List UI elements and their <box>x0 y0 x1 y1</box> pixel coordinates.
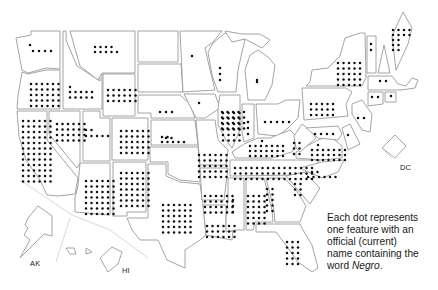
dot-tn <box>239 172 242 175</box>
dot-tx <box>189 231 192 234</box>
state-new-hampshire <box>378 45 390 73</box>
dot-az <box>85 180 88 183</box>
dot-or <box>52 99 55 102</box>
dot-nc <box>329 176 332 179</box>
dot-ut <box>96 135 99 138</box>
dot-ca <box>22 169 25 172</box>
dot-az <box>101 213 104 216</box>
dot-nm <box>147 205 150 208</box>
dot-al <box>247 195 250 198</box>
dot-ut <box>107 135 110 138</box>
dot-wy <box>112 94 115 97</box>
dot-co <box>125 141 128 144</box>
dot-or <box>30 83 33 86</box>
dot-la <box>211 230 214 233</box>
dot-al <box>252 217 255 220</box>
dot-tn <box>261 172 264 175</box>
dot-nm <box>142 205 145 208</box>
dot-nv <box>78 134 81 137</box>
dot-co <box>147 130 150 133</box>
dot-or <box>35 88 38 91</box>
dot-ky <box>282 150 285 153</box>
dot-or <box>57 105 60 108</box>
dot-ri <box>390 95 393 98</box>
dot-ny <box>359 67 362 70</box>
dot-ky <box>276 145 279 148</box>
dot-tn <box>234 167 237 170</box>
dot-ca <box>33 120 36 123</box>
dot-ky <box>249 155 252 158</box>
dot-il <box>238 139 241 142</box>
dot-ca <box>27 142 30 145</box>
dot-me <box>392 49 395 52</box>
dot-al <box>252 206 255 209</box>
dot-nv <box>56 123 59 126</box>
dot-ca <box>33 131 36 134</box>
dot-ca <box>38 164 41 167</box>
dot-ga <box>266 193 269 196</box>
dot-tn <box>272 167 275 170</box>
state-hawaii-island-1 <box>66 248 76 254</box>
dot-fl <box>291 246 294 249</box>
dot-wy <box>134 94 137 97</box>
dot-tx <box>167 231 170 234</box>
dot-tn <box>239 178 242 181</box>
dot-wy <box>118 89 121 92</box>
state-arizona <box>75 163 110 215</box>
dot-tx <box>167 220 170 223</box>
dot-al <box>258 217 261 220</box>
dot-az <box>107 185 110 188</box>
dot-me <box>392 44 395 47</box>
dot-va <box>333 154 336 157</box>
dot-co <box>136 146 139 149</box>
dot-ar <box>209 206 212 209</box>
dot-or <box>41 105 44 108</box>
dot-al <box>252 200 255 203</box>
dot-tx <box>173 215 176 218</box>
dot-mo <box>214 176 217 179</box>
dot-fl <box>286 252 289 255</box>
dot-nm <box>131 177 134 180</box>
dot-or <box>41 83 44 86</box>
dot-ny <box>342 67 345 70</box>
dot-az <box>101 185 104 188</box>
dot-co <box>120 130 123 133</box>
dot-va <box>311 154 314 157</box>
dot-va <box>344 154 347 157</box>
dot-ca <box>27 147 30 150</box>
dot-tx <box>173 204 176 207</box>
dot-nm <box>131 188 134 191</box>
dot-or <box>52 88 55 91</box>
dot-tx <box>184 209 187 212</box>
dot-ca <box>49 180 52 183</box>
dot-tx <box>178 215 181 218</box>
dot-me <box>397 39 400 42</box>
dot-il <box>238 112 241 115</box>
dot-ky <box>282 155 285 158</box>
dot-mo <box>209 176 212 179</box>
state-ohio <box>256 100 300 136</box>
dot-tn <box>305 178 308 181</box>
dot-mo <box>214 159 217 162</box>
dot-tn <box>245 172 248 175</box>
dot-la <box>222 230 225 233</box>
dot-az <box>85 207 88 210</box>
dot-al <box>263 217 266 220</box>
dot-nc <box>312 176 315 179</box>
dot-ar <box>204 195 207 198</box>
dot-ut <box>101 135 104 138</box>
dot-or <box>57 88 60 91</box>
dot-va <box>333 159 336 162</box>
dot-il <box>233 112 236 115</box>
state-hawaii-island-2 <box>86 248 92 254</box>
dot-ar <box>204 211 207 214</box>
dot-nv <box>83 139 86 142</box>
dot-ny <box>337 62 340 65</box>
dot-co <box>120 152 123 155</box>
dot-la <box>222 236 225 239</box>
dot-wv <box>293 142 296 145</box>
dot-wv <box>293 147 296 150</box>
dot-tn <box>267 172 270 175</box>
dot-va <box>316 154 319 157</box>
dot-tn <box>239 167 242 170</box>
